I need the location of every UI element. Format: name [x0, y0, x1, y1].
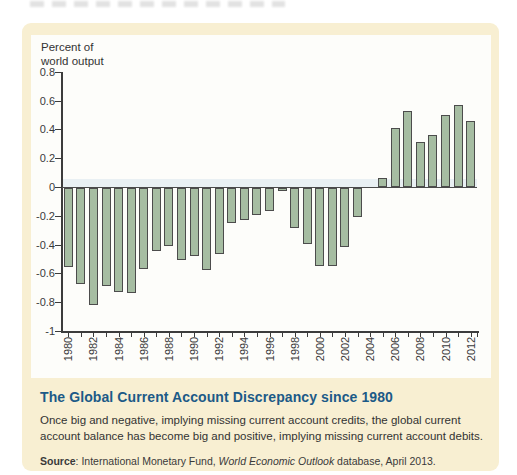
bar-2010	[441, 115, 450, 187]
y-tick	[55, 216, 61, 217]
y-tick	[55, 72, 61, 73]
y-axis-line	[61, 72, 63, 333]
bar-1991	[202, 188, 211, 270]
x-tick-label: 2010	[440, 337, 452, 361]
y-tick-label: -0.8	[31, 296, 55, 308]
source-publication: World Economic Outlook	[219, 455, 335, 467]
x-tick-label: 1984	[113, 337, 125, 361]
x-tick	[307, 333, 308, 337]
source-text-2: database, April 2013.	[334, 455, 436, 467]
bar-1980	[64, 188, 73, 267]
x-tick	[332, 333, 333, 337]
page-crop-scan-artifact	[30, 1, 285, 7]
x-tick-label: 1980	[62, 337, 74, 361]
bar-2012	[466, 121, 475, 187]
x-tick	[156, 333, 157, 337]
x-tick	[282, 333, 283, 337]
x-tick-label: 1990	[188, 337, 200, 361]
bar-2008	[416, 142, 425, 187]
bar-1987	[152, 188, 161, 251]
bar-1998	[290, 188, 299, 228]
bar-1983	[102, 188, 111, 286]
x-tick-label: 2000	[314, 337, 326, 361]
y-axis-unit-line1: Percent of	[41, 40, 104, 54]
y-tick-label: 0	[31, 181, 55, 193]
x-tick-label: 2012	[465, 337, 477, 361]
y-tick	[55, 158, 61, 159]
y-axis-unit-label: Percent of world output	[41, 40, 104, 68]
x-tick-label: 1994	[238, 337, 250, 361]
x-tick	[257, 333, 258, 337]
bar-2003	[353, 188, 362, 217]
x-tick-label: 1986	[138, 337, 150, 361]
x-tick-label: 1992	[213, 337, 225, 361]
x-tick	[383, 333, 384, 337]
figure-caption-block: The Global Current Account Discrepancy s…	[40, 389, 490, 467]
x-tick-label: 2006	[389, 337, 401, 361]
source-label: Source	[40, 455, 76, 467]
x-tick-label: 2008	[414, 337, 426, 361]
figure-source: Source: International Monetary Fund, Wor…	[40, 455, 490, 467]
bar-2000	[315, 188, 324, 266]
x-tick	[106, 333, 107, 337]
bar-1985	[127, 188, 136, 293]
x-tick	[181, 333, 182, 337]
bar-1993	[227, 188, 236, 223]
y-tick-label: -0.4	[31, 239, 55, 251]
bar-1986	[139, 188, 148, 269]
bar-2007	[403, 111, 412, 187]
bar-2005	[378, 178, 387, 187]
bar-1990	[190, 188, 199, 256]
bar-2011	[454, 105, 463, 187]
x-tick-label: 1982	[87, 337, 99, 361]
x-tick	[458, 333, 459, 337]
page: { "figure": { "card_bg": "#f8efd2", "pan…	[0, 0, 517, 475]
bar-2002	[340, 188, 349, 247]
x-tick	[433, 333, 434, 337]
x-tick-label: 2004	[364, 337, 376, 361]
bar-1996	[265, 188, 274, 211]
bar-2009	[428, 135, 437, 187]
y-tick	[55, 302, 61, 303]
x-tick-label: 1988	[163, 337, 175, 361]
y-tick-label: 0.6	[31, 95, 55, 107]
y-tick-label: -0.2	[31, 210, 55, 222]
figure-description: Once big and negative, implying missing …	[40, 412, 487, 444]
y-tick-label: 0.2	[31, 152, 55, 164]
x-tick	[131, 333, 132, 337]
bar-1992	[215, 188, 224, 254]
source-text-1: : International Monetary Fund,	[76, 455, 219, 467]
chart-panel: Percent of world output 0.80.60.40.20-0.…	[31, 35, 491, 378]
y-tick-label: 0.4	[31, 123, 55, 135]
y-tick	[55, 101, 61, 102]
y-tick-label: 0.8	[31, 66, 55, 78]
bar-1997	[278, 188, 287, 191]
bar-2001	[328, 188, 337, 266]
x-tick	[232, 333, 233, 337]
x-tick-label: 1996	[264, 337, 276, 361]
y-tick	[55, 187, 61, 188]
x-tick	[358, 333, 359, 337]
scan-tint-band	[62, 179, 477, 187]
bar-1988	[164, 188, 173, 246]
bar-1995	[252, 188, 261, 215]
bar-1984	[114, 188, 123, 292]
bar-1989	[177, 188, 186, 260]
x-tick-label: 1998	[289, 337, 301, 361]
bar-2006	[391, 128, 400, 187]
x-tick-end	[477, 333, 478, 337]
bar-1981	[76, 188, 85, 284]
y-tick	[55, 273, 61, 274]
bar-1999	[303, 188, 312, 244]
x-tick	[81, 333, 82, 337]
y-tick-label: -0.6	[31, 267, 55, 279]
y-tick	[55, 129, 61, 130]
x-tick-label: 2002	[339, 337, 351, 361]
y-tick-label: -1	[31, 325, 55, 337]
figure-title: The Global Current Account Discrepancy s…	[40, 389, 490, 405]
bar-1994	[240, 188, 249, 220]
figure-card: Percent of world output 0.80.60.40.20-0.…	[22, 23, 499, 471]
y-tick	[55, 245, 61, 246]
x-tick	[408, 333, 409, 337]
x-tick	[207, 333, 208, 337]
